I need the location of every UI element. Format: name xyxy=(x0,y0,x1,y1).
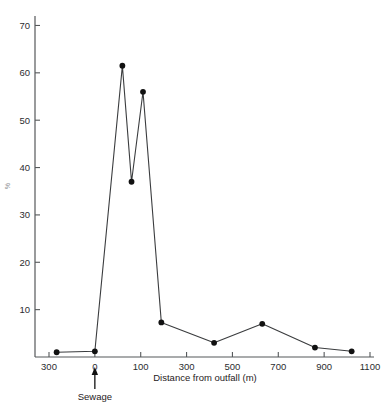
y-axis: 10203040506070 % xyxy=(4,16,40,357)
y-tick-label: 10 xyxy=(19,304,30,315)
chart-figure: 10203040506070 % 30001003005007009001100… xyxy=(0,0,386,411)
x-tick-label: 500 xyxy=(224,361,240,372)
y-tick-label: 40 xyxy=(19,162,30,173)
x-tick-label: 300 xyxy=(179,361,195,372)
x-tick-label: 900 xyxy=(316,361,332,372)
sewage-annotation: Sewage xyxy=(78,367,112,402)
sewage-label: Sewage xyxy=(78,391,112,402)
y-tick-label: 30 xyxy=(19,209,30,220)
data-point-marker xyxy=(349,348,355,354)
x-tick-label: 100 xyxy=(133,361,149,372)
x-tick-label: 1100 xyxy=(360,361,380,372)
line-chart-svg: 10203040506070 % 30001003005007009001100… xyxy=(0,0,386,411)
data-point-marker xyxy=(158,320,164,326)
data-point-marker xyxy=(140,89,146,95)
x-axis-title: Distance from outfall (m) xyxy=(153,372,256,383)
data-point-marker xyxy=(259,321,265,327)
x-tick-label: 300 xyxy=(41,361,57,372)
y-axis-title: % xyxy=(4,183,11,189)
y-tick-label: 20 xyxy=(19,257,30,268)
x-axis: 30001003005007009001100 Distance from ou… xyxy=(35,352,380,383)
series-line-path xyxy=(57,66,352,353)
data-point-marker xyxy=(129,179,135,185)
y-tick-label: 70 xyxy=(19,20,30,31)
data-point-marker xyxy=(119,63,125,69)
data-series xyxy=(54,63,355,355)
y-tick-label: 60 xyxy=(19,67,30,78)
y-axis-ticks: 10203040506070 xyxy=(19,20,40,315)
y-tick-label: 50 xyxy=(19,115,30,126)
data-point-marker xyxy=(54,349,60,355)
x-tick-label: 700 xyxy=(270,361,286,372)
x-axis-ticks: 30001003005007009001100 xyxy=(41,352,380,372)
data-point-marker xyxy=(312,345,318,351)
data-point-marker xyxy=(211,340,217,346)
data-point-marker xyxy=(92,348,98,354)
